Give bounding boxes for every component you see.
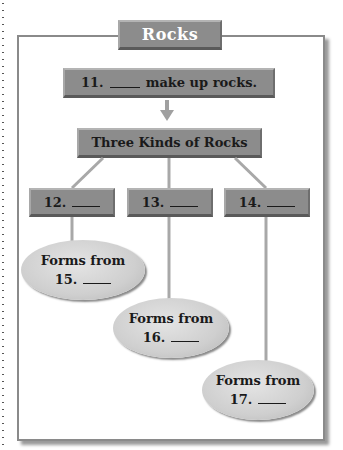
origin-label-16: Forms from	[129, 309, 214, 328]
kind-box-14: 14.	[224, 188, 310, 217]
kind-box-12: 12.	[29, 188, 115, 217]
kind-number-13: 13.	[142, 195, 165, 210]
kind-number-12: 12.	[44, 195, 67, 210]
answer-blank-16[interactable]	[171, 332, 199, 342]
origin-number-15: 15.	[55, 272, 78, 287]
origin-ellipse-17: Forms from 17.	[202, 360, 314, 420]
origin-number-16: 16.	[143, 330, 166, 345]
answer-blank-17[interactable]	[258, 394, 286, 404]
answer-blank-12[interactable]	[72, 197, 100, 207]
origin-ellipse-15: Forms from 15.	[21, 240, 145, 300]
answer-blank-15[interactable]	[83, 274, 111, 284]
answer-blank-13[interactable]	[170, 197, 198, 207]
kind-number-14: 14.	[239, 195, 262, 210]
answer-blank-14[interactable]	[267, 197, 295, 207]
kind-box-13: 13.	[127, 188, 213, 217]
origin-ellipse-16: Forms from 16.	[113, 298, 229, 358]
origin-label-15: Forms from	[41, 251, 126, 270]
origin-number-17: 17.	[230, 392, 253, 407]
origin-label-17: Forms from	[216, 371, 301, 390]
